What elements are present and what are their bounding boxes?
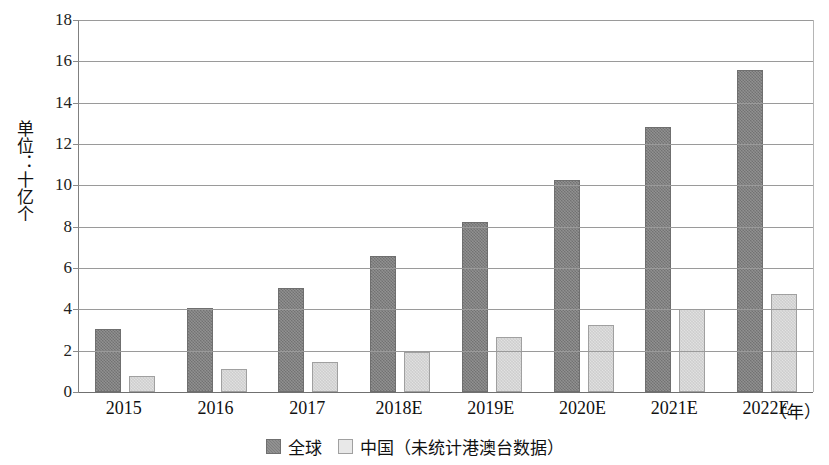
bar-china[interactable] (129, 376, 155, 392)
gridline (79, 20, 813, 21)
bar-global[interactable] (737, 70, 763, 392)
bar-global[interactable] (278, 288, 304, 392)
gridline (79, 268, 813, 269)
y-axis-tick-label: 12 (38, 134, 72, 154)
dark-gray-swatch (266, 439, 281, 454)
legend-item[interactable]: 全球 (266, 434, 322, 459)
bar-global[interactable] (95, 329, 121, 392)
bar-groups (79, 20, 813, 392)
bar-global[interactable] (462, 222, 488, 392)
axis-baseline (79, 392, 813, 393)
x-axis-unit-label: （年） (770, 398, 821, 423)
y-axis-title: 单位：十亿个 (6, 120, 32, 222)
bar-group (84, 20, 166, 392)
gridline (79, 61, 813, 62)
x-axis-tick-label: 2021E (633, 398, 715, 419)
gridline (79, 227, 813, 228)
chart-legend: 全球中国（未统计港澳台数据） (0, 434, 829, 459)
bar-global[interactable] (554, 180, 580, 392)
x-axis-tick-label: 2019E (450, 398, 532, 419)
gridline (79, 351, 813, 352)
y-axis-tick (73, 20, 79, 21)
y-axis-tick (73, 309, 79, 310)
y-axis-tick-label: 16 (38, 51, 72, 71)
bar-global[interactable] (370, 256, 396, 392)
bar-group (176, 20, 258, 392)
y-axis-tick (73, 227, 79, 228)
y-axis-tick-label: 14 (38, 93, 72, 113)
bar-china[interactable] (496, 337, 522, 392)
x-axis-tick-label: 2016 (175, 398, 257, 419)
y-axis-tick-label: 18 (38, 10, 72, 30)
bar-china[interactable] (221, 369, 247, 392)
bar-china[interactable] (588, 325, 614, 392)
y-axis-tick (73, 392, 79, 393)
legend-item-label: 全球 (288, 434, 322, 459)
y-axis-tick (73, 351, 79, 352)
legend-item[interactable]: 中国（未统计港澳台数据） (338, 434, 564, 459)
bar-group (634, 20, 716, 392)
x-axis-tick-label: 2017 (266, 398, 348, 419)
plot-area (78, 20, 814, 392)
y-axis-tick-label: 2 (38, 341, 72, 361)
bar-global[interactable] (645, 127, 671, 392)
y-axis-tick (73, 268, 79, 269)
x-axis-tick-label: 2018E (358, 398, 440, 419)
light-gray-swatch (338, 439, 353, 454)
bar-china[interactable] (312, 362, 338, 392)
gridline (79, 309, 813, 310)
gridline (79, 103, 813, 104)
y-axis-tick-label: 4 (38, 299, 72, 319)
y-axis-tick (73, 103, 79, 104)
bar-chart: 单位：十亿个 024681012141618 2015201620172018E… (0, 0, 829, 465)
bar-china[interactable] (404, 352, 430, 392)
y-axis-tick-labels: 024681012141618 (36, 0, 72, 465)
y-axis-tick-label: 0 (38, 382, 72, 402)
bar-group (451, 20, 533, 392)
legend-item-label: 中国（未统计港澳台数据） (360, 434, 564, 459)
bar-group (359, 20, 441, 392)
y-axis-tick (73, 144, 79, 145)
y-axis-tick-label: 6 (38, 258, 72, 278)
bar-group (267, 20, 349, 392)
bar-group (543, 20, 625, 392)
y-axis-tick (73, 61, 79, 62)
y-axis-tick-label: 10 (38, 175, 72, 195)
gridline (79, 144, 813, 145)
x-axis-tick-label: 2015 (83, 398, 165, 419)
x-axis-tick-label: 2020E (542, 398, 624, 419)
x-axis-tick-labels: 2015201620172018E2019E2020E2021E2022E (78, 398, 812, 426)
y-axis-tick (73, 185, 79, 186)
gridline (79, 185, 813, 186)
y-axis-tick-label: 8 (38, 217, 72, 237)
bar-group (726, 20, 808, 392)
